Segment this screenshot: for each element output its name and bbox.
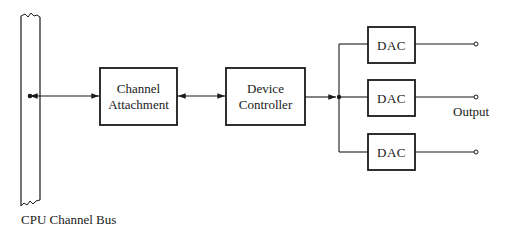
device-controller-block: Device Controller — [226, 68, 305, 125]
output-terminal-3 — [474, 150, 478, 154]
channel-attachment-label-line1: Channel — [117, 81, 161, 96]
channel-attachment-label-line2: Attachment — [108, 97, 169, 112]
device-controller-label-line2: Controller — [239, 97, 293, 112]
cpu-channel-bus — [21, 13, 40, 206]
channel-attachment-block: Channel Attachment — [100, 68, 177, 125]
dac-label-2: DAC — [377, 91, 406, 106]
output-label: Output — [453, 104, 490, 119]
dac-block-2: DAC — [368, 80, 415, 116]
bus-break-bottom — [21, 200, 40, 206]
dac-label-3: DAC — [377, 145, 406, 160]
dac-block-3: DAC — [368, 134, 415, 170]
system-block-diagram: Channel Attachment Device Controller DAC… — [0, 0, 510, 233]
output-terminal-1 — [474, 42, 478, 46]
cpu-channel-bus-label: CPU Channel Bus — [21, 212, 116, 227]
dac-label-1: DAC — [377, 38, 406, 53]
dac-block-1: DAC — [368, 27, 415, 63]
bus-break-top — [21, 13, 40, 17]
output-terminal-2 — [474, 95, 478, 99]
device-controller-label-line1: Device — [247, 81, 284, 96]
